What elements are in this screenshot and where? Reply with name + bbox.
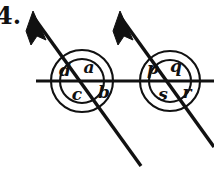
geometry-figure-canvas: 4. d a c b p q s r xyxy=(0,0,214,176)
angle-label-b: b xyxy=(98,82,110,102)
angle-label-d: d xyxy=(59,60,71,80)
angle-label-p: p xyxy=(147,58,159,78)
angle-label-s: s xyxy=(157,84,168,104)
angle-label-a: a xyxy=(83,57,94,77)
angle-label-c: c xyxy=(72,84,83,104)
angle-label-r: r xyxy=(183,82,193,102)
problem-number: 4. xyxy=(0,1,21,30)
angle-label-q: q xyxy=(170,56,182,76)
geometry-diagram: 4. d a c b p q s r xyxy=(0,0,214,176)
